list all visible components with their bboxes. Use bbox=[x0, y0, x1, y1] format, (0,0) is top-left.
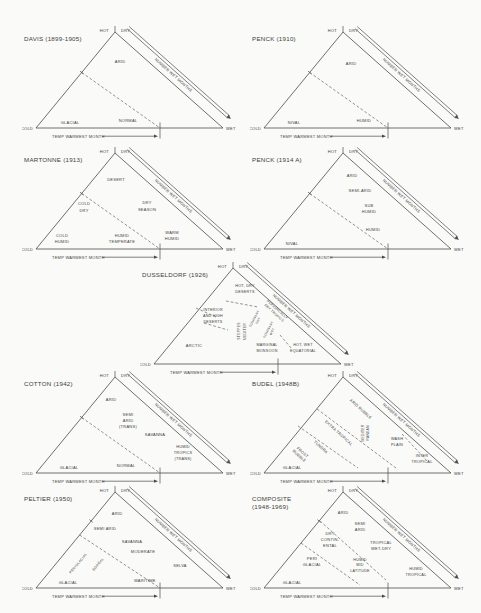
triangle-hypotenuse-edge bbox=[343, 32, 451, 128]
label-line: MID bbox=[356, 563, 364, 567]
apex-hot-label: HOT bbox=[328, 149, 338, 154]
wet-months-arrow-line bbox=[357, 487, 458, 576]
region-label: GLACIAL bbox=[283, 465, 302, 470]
panel-budel: BUDEL (1948B)HOTDRYCOLDWETNUMBER WET MON… bbox=[250, 370, 465, 496]
label-line: HUMID bbox=[353, 558, 366, 562]
region-label: DRYCONTIN-ENTAL bbox=[321, 531, 340, 548]
wet-months-arrow-line bbox=[245, 265, 346, 354]
label-line: MARGINAL bbox=[256, 343, 277, 347]
region-label: GLACIAL bbox=[61, 120, 80, 125]
apex-hot-label: HOT bbox=[100, 149, 110, 154]
cold-vertex-label: COLD bbox=[22, 586, 33, 591]
label-line: TROPICS bbox=[174, 451, 193, 455]
boundary-dashed-line bbox=[204, 323, 228, 330]
panel-svg-composite: COMPOSITE(1948-1969)HOTDRYCOLDWETNUMBER … bbox=[250, 485, 465, 607]
region-label: DOMINANTDRY bbox=[248, 309, 264, 329]
wet-months-arrow-line bbox=[355, 150, 456, 239]
label-line: GLACIAL bbox=[61, 120, 80, 125]
region-label: ARID bbox=[115, 59, 126, 64]
panel-svg-davis: DAVIS (1899-1905)HOTDRYCOLDWETNUMBER WET… bbox=[22, 25, 237, 147]
cold-vertex-label: COLD bbox=[250, 471, 261, 476]
label-line: HUMID bbox=[55, 239, 69, 244]
label-line: COLD bbox=[56, 233, 68, 238]
label-line: ARID bbox=[346, 61, 357, 66]
label-line: (TRANS) bbox=[119, 424, 137, 429]
label-line: NIVAL bbox=[288, 120, 301, 125]
apex-hot-label: HOT bbox=[328, 28, 338, 33]
label-line: HUMID bbox=[357, 118, 371, 123]
temp-arrowhead-icon bbox=[154, 480, 158, 483]
region-label: SELVA bbox=[173, 563, 187, 568]
panel-dusseldorf: DUSSELDORF (1926)HOTDRYCOLDWETNUMBER WET… bbox=[140, 261, 355, 387]
label-line: ENTAL bbox=[323, 543, 337, 548]
wet-months-arrow-line bbox=[127, 29, 228, 118]
region-label: SEMIARID bbox=[355, 521, 366, 532]
wet-months-arrowhead-icon bbox=[454, 236, 459, 240]
label-line: NORMAL bbox=[119, 118, 138, 123]
region-label: MODERATE bbox=[131, 549, 155, 554]
wet-months-axis-label: NUMBER WET MONTHS bbox=[154, 517, 194, 553]
boundary-dashed-line bbox=[317, 409, 396, 468]
region-label: MEDITERRANEAN bbox=[361, 424, 370, 441]
wet-months-arrowhead-icon bbox=[226, 575, 231, 579]
boundary-dashed-line bbox=[310, 194, 388, 250]
label-line: WET-DRY bbox=[371, 546, 391, 551]
temp-arrowhead-icon bbox=[382, 135, 386, 138]
region-label: FROSTRUBBLE bbox=[291, 445, 310, 463]
label-line: GLACIAL bbox=[60, 465, 79, 470]
region-label: COLDHUMID bbox=[55, 233, 69, 244]
region-label: SUBHUMID bbox=[362, 203, 376, 214]
label-line: WASH bbox=[391, 437, 403, 441]
label-line: ARID bbox=[347, 173, 358, 178]
region-label: SEMI ARID bbox=[94, 526, 116, 531]
region-label: GLACIAL bbox=[59, 580, 78, 585]
panel-title: COTTON (1942) bbox=[24, 380, 73, 387]
region-label: MARGINALMONSOON bbox=[256, 343, 277, 353]
label-line: INTER bbox=[416, 454, 429, 458]
label-line: LATITUDE bbox=[350, 569, 370, 573]
label-line: WARM bbox=[165, 230, 179, 235]
label-line: BOREAL bbox=[92, 557, 105, 572]
region-label: ARID bbox=[347, 173, 358, 178]
region-label: ARID bbox=[346, 61, 357, 66]
label-line: TUNDRA bbox=[313, 440, 329, 455]
region-label: SEMIARID(TRANS) bbox=[119, 412, 137, 429]
wet-months-axis-label: NUMBER WET MONTHS bbox=[154, 57, 194, 93]
panel-title: (1948-1969) bbox=[252, 503, 288, 510]
temp-axis-label: TEMP WARMEST MONTH bbox=[52, 134, 105, 139]
wet-months-arrowhead-icon bbox=[454, 115, 459, 119]
panel-svg-peltier: PELTIER (1950)HOTDRYCOLDWETNUMBER WET MO… bbox=[22, 485, 237, 607]
label-line: ARID bbox=[115, 59, 126, 64]
cold-vertex-label: COLD bbox=[250, 247, 261, 252]
label-line: ARID bbox=[112, 511, 123, 516]
region-label: NIVAL bbox=[286, 241, 299, 246]
wet-months-axis-label: NUMBER WET MONTHS bbox=[382, 178, 422, 214]
panel-svg-martonne: MARTONNE (1913)HOTDRYCOLDWETNUMBER WET M… bbox=[22, 146, 237, 268]
label-line: CONTIN- bbox=[321, 537, 340, 542]
wet-months-arrow-line bbox=[355, 29, 456, 118]
region-label: ARID bbox=[338, 510, 349, 515]
label-line: EXTRA TROPICAL bbox=[324, 420, 353, 447]
label-line: HUMID bbox=[165, 236, 179, 241]
region-label: STEPPESMEDITER. bbox=[237, 322, 247, 340]
wet-vertex-label: WET bbox=[454, 247, 464, 252]
region-label: HUMIDMIDLATITUDE bbox=[350, 558, 370, 573]
label-line: DRY bbox=[79, 208, 88, 213]
triangle-left-edge bbox=[36, 153, 115, 249]
wet-months-arrow-line bbox=[357, 27, 458, 116]
wet-vertex-label: WET bbox=[454, 586, 464, 591]
region-label: NIVAL bbox=[288, 120, 301, 125]
region-label: HUMIDTROPICS(TRANS) bbox=[174, 445, 193, 461]
region-label: EXTRA TROPICAL bbox=[324, 420, 353, 447]
region-label: BOREAL bbox=[92, 557, 105, 572]
apex-hot-label: HOT bbox=[100, 488, 110, 493]
label-line: ARID bbox=[123, 418, 134, 423]
label-line: DRY bbox=[325, 531, 334, 536]
triangle-left-edge bbox=[264, 32, 343, 128]
apex-hot-label: HOT bbox=[218, 264, 228, 269]
label-line: SELVA bbox=[173, 563, 187, 568]
panel-title: PENCK (1910) bbox=[252, 35, 296, 42]
region-label: HUMIDTEMPERATE bbox=[109, 233, 135, 244]
apex-hot-label: HOT bbox=[328, 488, 338, 493]
temp-arrowhead-icon bbox=[154, 256, 158, 259]
